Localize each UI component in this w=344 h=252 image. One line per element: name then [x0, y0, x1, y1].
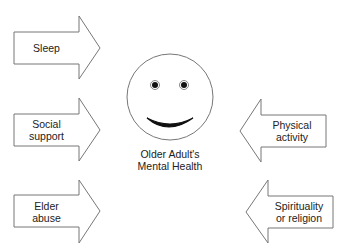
- center-label: Older Adult's Mental Health: [120, 148, 220, 172]
- factor-label-elder-abuse: Elder abuse: [14, 200, 79, 224]
- label-line: Elder: [14, 200, 79, 212]
- label-line: Spirituality: [264, 200, 334, 212]
- center-label-line2: Mental Health: [120, 160, 220, 172]
- factor-label-physical-activity: Physical activity: [258, 119, 326, 143]
- label-line: or religion: [264, 212, 334, 224]
- factor-label-social-support: Social support: [14, 118, 79, 142]
- label-line: support: [14, 130, 79, 142]
- factor-label-sleep: Sleep: [14, 42, 79, 54]
- label-line: Physical: [258, 119, 326, 131]
- label-line: abuse: [14, 212, 79, 224]
- center-label-line1: Older Adult's: [120, 148, 220, 160]
- label-line: Sleep: [14, 42, 79, 54]
- label-line: activity: [258, 131, 326, 143]
- label-line: Social: [14, 118, 79, 130]
- smiley-face-icon: [127, 54, 213, 140]
- factor-label-spirituality: Spirituality or religion: [264, 200, 334, 224]
